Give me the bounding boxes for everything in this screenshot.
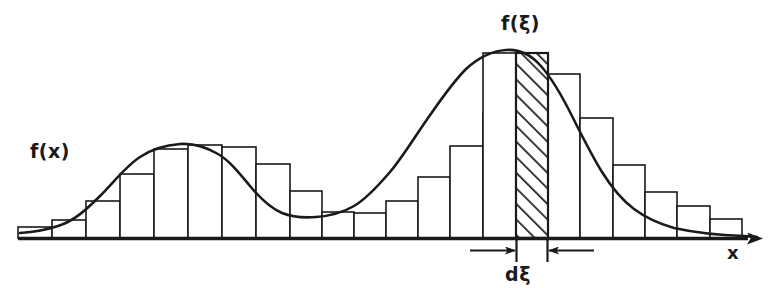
histogram-bar xyxy=(386,201,418,238)
curve-label-fx: f(x) xyxy=(30,140,70,162)
histogram-bar xyxy=(645,192,677,238)
histogram-bar xyxy=(154,149,188,238)
histogram-bar xyxy=(418,177,450,238)
figure-container: f(x) f(ξ) dξ x xyxy=(0,0,781,288)
histogram-bar xyxy=(483,53,516,238)
histogram-bars-group xyxy=(18,53,742,238)
hatched-strip xyxy=(516,53,548,238)
interval-label-d-xi: dξ xyxy=(505,263,531,285)
histogram-bar xyxy=(613,165,645,238)
x-axis-label: x xyxy=(727,242,739,263)
histogram-bar xyxy=(580,118,613,238)
histogram-bar xyxy=(354,213,386,238)
peak-label-f-xi: f(ξ) xyxy=(501,12,540,34)
histogram-bar xyxy=(450,146,483,238)
dxi-dimension-group xyxy=(470,237,594,262)
histogram-bar xyxy=(120,174,154,238)
histogram-bar xyxy=(188,145,222,238)
density-histogram-figure: f(x) f(ξ) dξ x xyxy=(0,0,781,288)
histogram-bar xyxy=(86,201,120,238)
histogram-bar xyxy=(256,164,290,238)
histogram-bar xyxy=(290,191,322,238)
